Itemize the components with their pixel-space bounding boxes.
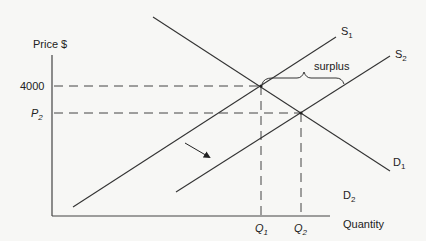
tick-q2: Q2	[294, 222, 308, 237]
supply-demand-chart: Price $ Quantity 4000 P2 Q1 Q2 S1 S2 D1 …	[0, 0, 426, 241]
label-d1: D1	[393, 156, 406, 171]
surplus-label: surplus	[314, 60, 350, 72]
equilibrium-point-2	[299, 111, 302, 114]
equilibrium-point-1	[259, 84, 262, 87]
label-d2: D2	[343, 189, 356, 204]
surplus-brace	[262, 72, 344, 84]
demand-curve-d1	[153, 17, 390, 171]
tick-p2: P2	[31, 107, 43, 122]
supply-curve-s2	[176, 56, 390, 192]
y-axis-title: Price $	[33, 38, 67, 50]
supply-curve-s1	[73, 37, 336, 207]
tick-q1: Q1	[255, 222, 268, 237]
tick-4000: 4000	[20, 80, 44, 92]
x-axis-title: Quantity	[343, 218, 384, 230]
chart-svg: Price $ Quantity 4000 P2 Q1 Q2 S1 S2 D1 …	[0, 0, 426, 241]
label-s2: S2	[395, 48, 407, 63]
shift-arrow-icon	[185, 143, 209, 157]
label-s1: S1	[341, 25, 353, 40]
